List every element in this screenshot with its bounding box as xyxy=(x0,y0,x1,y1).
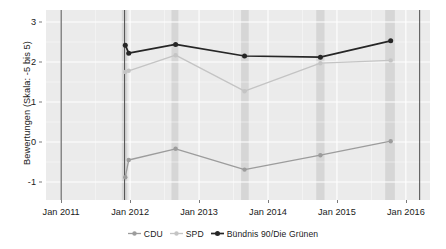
legend-item[interactable]: CDU xyxy=(128,228,163,239)
y-tick-mark xyxy=(39,22,42,23)
y-tick-label: 1 xyxy=(31,97,36,107)
x-tick-mark xyxy=(337,200,338,203)
y-tick-mark xyxy=(39,182,42,183)
plot-panel xyxy=(46,10,430,200)
legend-label: Bündnis 90/Die Grünen xyxy=(227,229,318,239)
y-tick-label: 2 xyxy=(31,57,36,67)
data-point xyxy=(318,153,322,157)
data-point xyxy=(318,55,323,60)
x-tick-label: Jan 2014 xyxy=(249,207,287,217)
x-tick-label: Jan 2015 xyxy=(318,207,356,217)
y-tick-label: -1 xyxy=(28,177,36,187)
series-line xyxy=(125,141,390,177)
y-tick-mark xyxy=(39,62,42,63)
data-point xyxy=(123,43,128,48)
x-tick-label: Jan 2011 xyxy=(43,207,80,217)
legend-marker-icon xyxy=(211,228,224,239)
data-point xyxy=(389,139,393,143)
chart-legend: CDUSPDBündnis 90/Die Grünen xyxy=(0,228,446,239)
data-point xyxy=(388,38,393,43)
y-tick-label: 3 xyxy=(31,17,36,27)
x-tick-label: Jan 2016 xyxy=(387,207,425,217)
data-point xyxy=(173,42,178,47)
series-line xyxy=(125,55,390,91)
plot-area xyxy=(46,10,430,200)
y-tick-label: 0 xyxy=(31,137,36,147)
x-tick-mark xyxy=(130,200,131,203)
series-line xyxy=(125,41,390,57)
x-tick-label: Jan 2013 xyxy=(180,207,218,217)
y-tick-mark xyxy=(39,142,42,143)
data-point xyxy=(127,69,131,73)
data-point xyxy=(242,89,246,93)
data-point xyxy=(123,175,127,179)
data-point xyxy=(127,158,131,162)
x-tick-label: Jan 2012 xyxy=(111,207,149,217)
y-tick-mark xyxy=(39,102,42,103)
legend-item[interactable]: Bündnis 90/Die Grünen xyxy=(211,228,318,239)
data-point xyxy=(389,58,393,62)
data-point xyxy=(126,51,131,56)
x-tick-mark xyxy=(406,200,407,203)
line-chart: Bewertungen (Skala: -5 bis 5) 3210-1 Jan… xyxy=(0,0,446,249)
x-tick-mark xyxy=(61,200,62,203)
data-point xyxy=(318,61,322,65)
data-point xyxy=(173,147,177,151)
legend-marker-icon xyxy=(170,228,183,239)
x-tick-mark xyxy=(199,200,200,203)
x-axis-ticks: Jan 2011Jan 2012Jan 2013Jan 2014Jan 2015… xyxy=(0,200,446,224)
data-point xyxy=(173,53,177,57)
shaded-band xyxy=(316,10,324,200)
shaded-band xyxy=(171,10,178,200)
legend-marker-icon xyxy=(128,228,141,239)
legend-item[interactable]: SPD xyxy=(170,228,204,239)
legend-label: SPD xyxy=(186,229,204,239)
data-point xyxy=(242,54,247,59)
x-tick-mark xyxy=(268,200,269,203)
legend-label: CDU xyxy=(144,229,163,239)
data-point xyxy=(242,167,246,171)
